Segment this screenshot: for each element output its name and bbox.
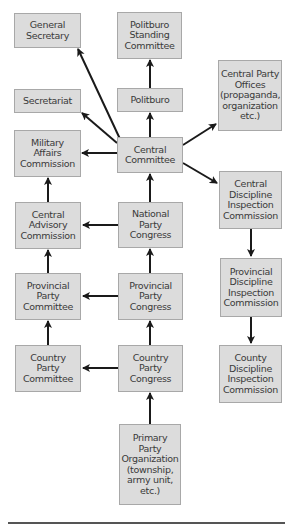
node-politburo: Politburo bbox=[117, 88, 183, 112]
node-provincial-party-congress: Provincial Party Congress bbox=[118, 273, 183, 320]
node-central-advisory-commission: Central Advisory Commission bbox=[15, 202, 81, 249]
arrow-cc-to-general-secretary bbox=[78, 49, 120, 139]
arrow-cc-to-secretariat bbox=[82, 113, 117, 143]
node-politburo-standing-committee: Politburo Standing Committee bbox=[117, 12, 182, 59]
arrow-cc-to-central-party-offices bbox=[183, 124, 216, 145]
node-military-affairs-commission: Military Affairs Commission bbox=[14, 130, 81, 177]
node-central-discipline-inspection-commission: Central Discipline Inspection Commission bbox=[219, 171, 282, 229]
node-country-party-committee: Country Party Committee bbox=[15, 345, 81, 392]
node-central-party-offices: Central Party Offices (propaganda, organ… bbox=[218, 60, 282, 131]
node-provincial-discipline-inspection-commission: Provincial Discipline Inspection Commiss… bbox=[220, 258, 282, 317]
bottom-rule-divider bbox=[8, 522, 285, 524]
arrow-cc-to-cdic bbox=[183, 163, 217, 183]
node-secretariat: Secretariat bbox=[14, 89, 81, 113]
node-primary-party-organization: Primary Party Organization (township, ar… bbox=[119, 424, 181, 505]
node-country-party-congress: Country Party Congress bbox=[118, 345, 183, 392]
node-general-secretary: General Secretary bbox=[14, 13, 81, 48]
node-county-discipline-inspection-commission: County Discipline Inspection Commission bbox=[219, 345, 282, 403]
node-central-committee: Central Committee bbox=[117, 137, 183, 173]
node-provincial-party-committee: Provincial Party Committee bbox=[15, 273, 81, 320]
node-national-party-congress: National Party Congress bbox=[118, 202, 183, 248]
